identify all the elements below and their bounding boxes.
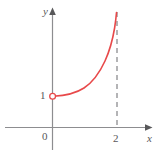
y-tick-label-1: 1 bbox=[40, 90, 46, 101]
origin-label: 0 bbox=[42, 131, 48, 142]
y-axis-label: y bbox=[43, 6, 48, 17]
x-tick-label-2: 2 bbox=[113, 133, 119, 144]
open-endpoint-circle bbox=[50, 93, 56, 99]
graph-figure: y x 0 1 2 bbox=[0, 0, 162, 166]
y-axis-arrowhead bbox=[49, 8, 56, 16]
curve-path bbox=[54, 13, 117, 97]
plot-canvas bbox=[0, 0, 162, 166]
x-axis-label: x bbox=[147, 133, 152, 144]
x-axis-arrowhead bbox=[145, 124, 153, 131]
